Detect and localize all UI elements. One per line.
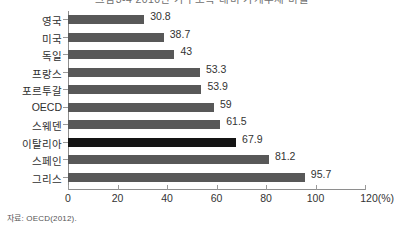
- bar-value-label: 67.9: [242, 133, 262, 145]
- x-axis-label: 60: [211, 192, 223, 204]
- bar-미국[interactable]: [68, 33, 164, 42]
- category-label-OECD: OECD: [0, 101, 62, 113]
- bar-row: 53.3: [68, 64, 365, 82]
- bar-row: 67.9: [68, 134, 365, 152]
- category-label-스웨덴: 스웨덴: [0, 118, 62, 133]
- category-label-독일: 독일: [0, 48, 62, 63]
- x-axis-label: 120(%): [360, 192, 394, 204]
- bar-value-label: 81.2: [275, 150, 295, 162]
- bar-value-label: 95.7: [311, 168, 331, 180]
- bar-프랑스[interactable]: [68, 68, 200, 77]
- x-axis-label: 100: [307, 192, 325, 204]
- y-axis-tick: [63, 72, 68, 73]
- bar-value-label: 59: [220, 98, 232, 110]
- x-axis-label: 20: [112, 192, 124, 204]
- bar-row: 43: [68, 46, 365, 64]
- y-axis-tick: [63, 89, 68, 90]
- category-label-그리스: 그리스: [0, 171, 62, 186]
- x-axis-label: 40: [161, 192, 173, 204]
- y-axis-tick: [63, 107, 68, 108]
- x-axis-label: 80: [260, 192, 272, 204]
- x-axis-tick: [217, 185, 218, 190]
- y-axis-tick: [63, 124, 68, 125]
- bar-value-label: 38.7: [170, 28, 190, 40]
- category-label-미국: 미국: [0, 31, 62, 46]
- category-label-영국: 영국: [0, 13, 62, 28]
- bar-row: 95.7: [68, 169, 365, 187]
- category-label-포르투갈: 포르투갈: [0, 83, 62, 98]
- chart-title: 그림3-4 2010년 가구소득 대비 가계부채 비율: [0, 0, 404, 5]
- bar-row: 30.8: [68, 11, 365, 29]
- bar-value-label: 53.3: [206, 63, 226, 75]
- bar-그리스[interactable]: [68, 173, 305, 182]
- x-axis-label: 0: [65, 192, 71, 204]
- bar-row: 38.7: [68, 29, 365, 47]
- bar-스페인[interactable]: [68, 155, 269, 164]
- y-axis-tick: [63, 19, 68, 20]
- bar-value-label: 61.5: [226, 115, 246, 127]
- category-label-스페인: 스페인: [0, 153, 62, 168]
- bar-포르투갈[interactable]: [68, 85, 201, 94]
- y-axis-tick: [63, 37, 68, 38]
- x-axis-tick: [365, 185, 366, 190]
- plot-area: 30.838.74353.353.95961.567.981.295.7: [68, 11, 365, 189]
- x-axis-tick: [266, 185, 267, 190]
- bar-value-label: 30.8: [150, 10, 170, 22]
- bar-OECD[interactable]: [68, 103, 214, 112]
- category-label-이탈리아: 이탈리아: [0, 136, 62, 151]
- x-axis-tick: [68, 185, 69, 190]
- bar-row: 59: [68, 99, 365, 117]
- y-axis-tick: [63, 142, 68, 143]
- bar-value-label: 43: [180, 45, 192, 57]
- bar-스웨덴[interactable]: [68, 120, 220, 129]
- category-label-프랑스: 프랑스: [0, 66, 62, 81]
- y-axis-tick: [63, 159, 68, 160]
- bar-이탈리아[interactable]: [68, 138, 236, 147]
- x-axis-tick: [316, 185, 317, 190]
- x-axis-tick: [118, 185, 119, 190]
- x-axis-tick: [167, 185, 168, 190]
- bar-row: 53.9: [68, 81, 365, 99]
- category-axis-labels: 영국미국독일프랑스포르투갈OECD스웨덴이탈리아스페인그리스: [0, 11, 62, 189]
- y-axis-tick: [63, 177, 68, 178]
- y-axis-tick: [63, 54, 68, 55]
- bar-row: 61.5: [68, 116, 365, 134]
- source-note: 자료: OECD(2012).: [7, 212, 77, 223]
- bar-독일[interactable]: [68, 50, 174, 59]
- bar-영국[interactable]: [68, 15, 144, 24]
- bar-row: 81.2: [68, 151, 365, 169]
- bar-value-label: 53.9: [207, 80, 227, 92]
